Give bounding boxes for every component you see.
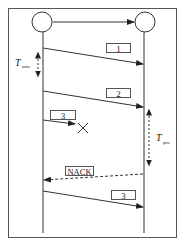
message-1-label: 1 xyxy=(116,44,121,54)
receiver-node xyxy=(135,12,155,32)
sender-node xyxy=(32,12,52,32)
sequence-diagram: 1 T min 2 3 T pro NACK 3 xyxy=(0,0,181,244)
diagram-frame xyxy=(9,9,177,238)
t-min-symbol: T xyxy=(15,57,22,68)
t-pro-symbol: T xyxy=(156,132,163,143)
message-2-label: 2 xyxy=(116,89,121,99)
t-min-subscript: min xyxy=(22,64,30,69)
message-3-lost-arrow xyxy=(43,120,75,124)
nack-label: NACK xyxy=(67,167,92,177)
packet-loss-x-icon xyxy=(78,123,88,133)
t-pro-subscript: pro xyxy=(163,140,170,145)
message-3-retransmit-label: 3 xyxy=(121,191,126,201)
message-3-lost-label: 3 xyxy=(61,111,66,121)
